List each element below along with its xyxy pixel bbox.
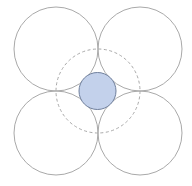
circle-packing-diagram [0,0,192,186]
inner-filled-circle [79,73,116,110]
